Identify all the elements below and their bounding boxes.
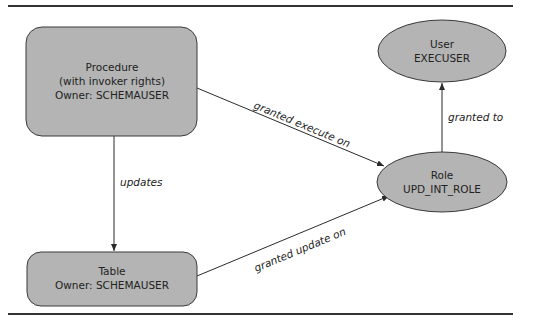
node-role: Role UPD_INT_ROLE xyxy=(377,152,507,212)
edge-label-granted-update-on: granted update on xyxy=(252,225,347,274)
bottom-rule xyxy=(8,313,513,315)
edge-granted-to: granted to xyxy=(442,83,503,152)
edge-label-granted-execute-on: granted execute on xyxy=(252,99,352,150)
node-role-line-1: Role xyxy=(431,169,454,181)
node-procedure-line-3: Owner: SCHEMAUSER xyxy=(55,89,169,101)
edge-granted-execute-on: granted execute on xyxy=(197,88,384,166)
edge-label-updates: updates xyxy=(120,176,163,188)
node-user-line-2: EXECUSER xyxy=(414,52,470,64)
node-role-line-2: UPD_INT_ROLE xyxy=(403,183,481,196)
edge-granted-update-on: granted update on xyxy=(197,196,389,276)
node-user-line-1: User xyxy=(430,38,455,50)
node-procedure-line-1: Procedure xyxy=(86,61,139,73)
node-table-line-2: Owner: SCHEMAUSER xyxy=(55,279,169,291)
edge-label-granted-to: granted to xyxy=(448,111,503,123)
node-table: Table Owner: SCHEMAUSER xyxy=(27,252,197,306)
node-procedure: Procedure (with invoker rights) Owner: S… xyxy=(26,27,197,136)
node-procedure-line-2: (with invoker rights) xyxy=(59,75,165,87)
diagram-canvas: granted execute on updates granted updat… xyxy=(0,0,535,329)
node-user: User EXECUSER xyxy=(378,20,506,82)
edge-updates: updates xyxy=(114,136,163,251)
node-table-line-1: Table xyxy=(97,265,125,277)
